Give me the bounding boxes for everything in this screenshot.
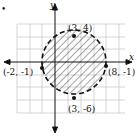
graph: • x y (3, 4) (-2, -1) (8, -1) (3, -6) — [0, 0, 137, 137]
point-label-top: (3, 4) — [68, 23, 92, 33]
point-label-right: (8, -1) — [108, 67, 135, 77]
bullet: • — [1, 4, 6, 14]
point-label-left: (-2, -1) — [3, 67, 33, 77]
point-label-bottom: (3, -6) — [68, 104, 95, 114]
x-axis-label: x — [129, 52, 134, 62]
y-axis-label: y — [49, 0, 56, 10]
